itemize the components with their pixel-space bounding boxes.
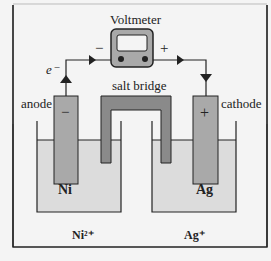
anode-sign: − [61, 104, 69, 121]
anode-metal-label: Ni [58, 182, 72, 198]
electron-label: e⁻ [46, 62, 59, 78]
anode-label: anode [21, 96, 52, 112]
salt-bridge-label: salt bridge [112, 78, 167, 94]
anode-ion-label: Ni²⁺ [72, 228, 94, 243]
minus-terminal: − [95, 40, 103, 57]
cathode-metal-label: Ag [196, 182, 213, 198]
plus-terminal: + [160, 40, 168, 57]
cathode-sign: + [200, 104, 209, 122]
voltmeter-label: Voltmeter [110, 12, 161, 28]
salt-bridge [101, 96, 171, 163]
cathode-label: cathode [221, 96, 261, 112]
cathode-ion-label: Ag⁺ [184, 228, 205, 243]
galvanic-cell-diagram [0, 0, 271, 261]
